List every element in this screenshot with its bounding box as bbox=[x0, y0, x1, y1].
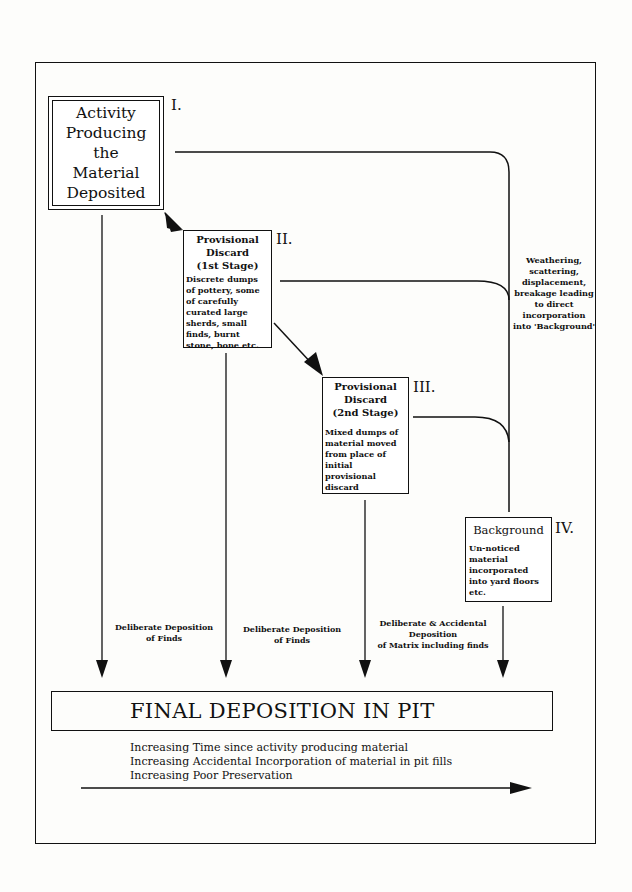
stage-i-numeral: I. bbox=[171, 96, 182, 114]
down-arrow-icon bbox=[359, 500, 371, 678]
stage-ii-title-line: Provisional bbox=[186, 233, 269, 246]
weathering-path bbox=[280, 281, 509, 300]
flow-label: Deliberate & Accidental Deposition of Ma… bbox=[372, 618, 494, 651]
stage-iv-numeral: IV. bbox=[555, 519, 574, 537]
flow-label-line: of Finds bbox=[108, 633, 220, 644]
stage-iii-description: Mixed dumps of material moved from place… bbox=[325, 427, 406, 493]
stage-iv-title: Background bbox=[469, 523, 548, 538]
down-arrow-icon bbox=[497, 606, 509, 678]
flow-label-line: of Finds bbox=[236, 635, 348, 646]
stage-ii-title-line: (1st Stage) bbox=[186, 259, 269, 272]
flow-label-line: Deliberate & Accidental bbox=[372, 618, 494, 629]
stage-ii-description: Discrete dumps of pottery, some of caref… bbox=[186, 274, 269, 351]
stage-iii-numeral: III. bbox=[413, 378, 436, 396]
trend-item: Increasing Time since activity producing… bbox=[130, 741, 452, 755]
final-deposition-title: FINAL DEPOSITION IN PIT bbox=[130, 699, 434, 723]
flow-label-line: Deliberate Deposition bbox=[236, 624, 348, 635]
stage-i-box: Activity Producing the Material Deposite… bbox=[48, 96, 164, 210]
stage-i-title-line: Producing bbox=[53, 123, 159, 143]
weathering-path bbox=[413, 417, 509, 442]
diagonal-arrow-icon bbox=[274, 323, 323, 376]
flow-label: Deliberate Deposition of Finds bbox=[108, 622, 220, 644]
stage-i-title-line: Material bbox=[53, 163, 159, 183]
time-arrow-icon bbox=[81, 782, 532, 794]
stage-iv-description: Un-noticed material incorporated into ya… bbox=[469, 543, 548, 598]
flow-label-line: Deposition bbox=[372, 629, 494, 640]
stage-i-title-line: Activity bbox=[53, 103, 159, 123]
stage-iii-title: Provisional Discard (2nd Stage) bbox=[325, 380, 406, 419]
stage-ii-box: Provisional Discard (1st Stage) Discrete… bbox=[183, 230, 272, 348]
diagonal-arrow-icon bbox=[164, 212, 183, 232]
flow-label-line: Deliberate Deposition bbox=[108, 622, 220, 633]
down-arrow-icon bbox=[220, 353, 232, 678]
stage-iii-box: Provisional Discard (2nd Stage) Mixed du… bbox=[322, 377, 409, 494]
stage-iii-title-line: Provisional bbox=[325, 380, 406, 393]
down-arrow-icon bbox=[96, 215, 108, 678]
trend-list: Increasing Time since activity producing… bbox=[130, 741, 452, 783]
weathering-note: Weathering, scattering, displacement, br… bbox=[512, 255, 596, 332]
stage-i-title-line: the bbox=[53, 143, 159, 163]
trend-item: Increasing Accidental Incorporation of m… bbox=[130, 755, 452, 769]
flow-label-line: of Matrix including finds bbox=[372, 640, 494, 651]
stage-i-title-line: Deposited bbox=[53, 183, 159, 203]
stage-ii-numeral: II. bbox=[276, 230, 293, 248]
stage-ii-title-line: Discard bbox=[186, 246, 269, 259]
stage-iii-title-line: (2nd Stage) bbox=[325, 406, 406, 419]
stage-ii-title: Provisional Discard (1st Stage) bbox=[186, 233, 269, 272]
trend-item: Increasing Poor Preservation bbox=[130, 769, 452, 783]
final-deposition-box: FINAL DEPOSITION IN PIT bbox=[51, 691, 553, 731]
flow-label: Deliberate Deposition of Finds bbox=[236, 624, 348, 646]
stage-iii-title-line: Discard bbox=[325, 393, 406, 406]
stage-iv-box: Background Un-noticed material incorpora… bbox=[465, 517, 552, 602]
